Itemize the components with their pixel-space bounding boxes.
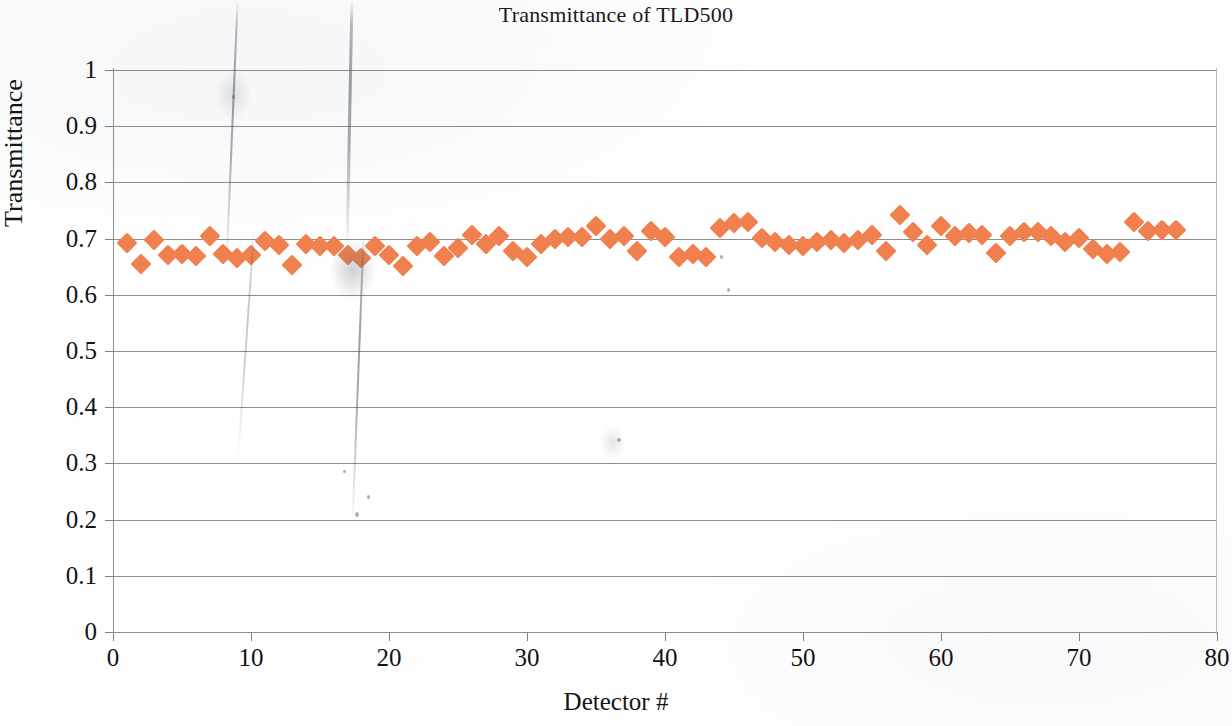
scan-speck-g [232, 95, 235, 99]
x-tick-label: 40 [653, 645, 678, 670]
scan-smudge-midpage [600, 425, 626, 459]
x-tick-label: 20 [377, 645, 402, 670]
y-tick-label: 1 [85, 57, 98, 82]
x-tick-label: 60 [929, 645, 954, 670]
scan-speck-f [617, 438, 621, 442]
x-axis-tick [1217, 632, 1218, 641]
data-point-marker [116, 232, 137, 253]
grid-line-horizontal [113, 295, 1217, 296]
grid-line-horizontal [113, 126, 1217, 127]
chart-title: Transmittance of TLD500 [0, 2, 1232, 28]
grid-line-horizontal [113, 520, 1217, 521]
x-axis-title: Detector # [0, 688, 1232, 716]
y-axis-title-text: Transmittance [0, 79, 29, 227]
grid-line-horizontal [113, 576, 1217, 577]
scanned-chart-page: Transmittance of TLD500 Transmittance De… [0, 0, 1232, 726]
grid-line-horizontal [113, 70, 1217, 71]
scan-streak-left [225, 0, 238, 268]
data-point-marker [875, 240, 896, 261]
scan-speck-c [343, 470, 346, 473]
grid-line-horizontal [113, 463, 1217, 464]
x-tick-label: 80 [1205, 645, 1230, 670]
x-axis-tick [1079, 632, 1080, 641]
y-tick-label: 0.9 [66, 113, 97, 138]
y-tick-label: 0.7 [66, 226, 97, 251]
x-tick-label: 70 [1067, 645, 1092, 670]
y-axis-line [113, 68, 114, 634]
data-point-marker [240, 245, 261, 266]
scan-streak-center-lower [351, 236, 365, 526]
x-tick-label: 0 [107, 645, 120, 670]
data-point-marker [144, 230, 165, 251]
y-tick-label: 0.6 [66, 282, 97, 307]
scan-speck-a [355, 512, 359, 517]
x-axis-line [113, 632, 1217, 633]
data-point-marker [627, 240, 648, 261]
y-tick-label: 0.5 [66, 338, 97, 363]
x-tick-label: 10 [239, 645, 264, 670]
x-tick-label: 50 [791, 645, 816, 670]
x-axis-tick [665, 632, 666, 641]
x-axis-tick [803, 632, 804, 641]
x-axis-tick [389, 632, 390, 641]
plot-right-border [1216, 68, 1217, 634]
data-point-marker [1110, 241, 1131, 262]
data-point-marker [917, 234, 938, 255]
x-tick-label: 30 [515, 645, 540, 670]
y-tick-label: 0.4 [66, 394, 97, 419]
data-point-marker [282, 254, 303, 275]
x-axis-tick [251, 632, 252, 641]
data-point-marker [130, 254, 151, 275]
x-axis-tick [941, 632, 942, 641]
data-point-marker [889, 204, 910, 225]
scan-speck-b [367, 495, 370, 499]
data-point-marker [185, 245, 206, 266]
data-point-marker [199, 226, 220, 247]
y-tick-label: 0.8 [66, 169, 97, 194]
grid-line-horizontal [113, 407, 1217, 408]
data-point-marker [1165, 220, 1186, 241]
paper-background [0, 0, 1232, 726]
grid-line-horizontal [113, 351, 1217, 352]
y-tick-label: 0 [85, 619, 98, 644]
scan-smudge-upper [215, 70, 251, 120]
scan-speck-e [727, 288, 730, 292]
scan-speck-d [720, 255, 723, 259]
x-axis-tick [527, 632, 528, 641]
scan-streak-center [346, 0, 353, 250]
y-tick-label: 0.3 [66, 450, 97, 475]
y-tick-label: 0.1 [66, 563, 97, 588]
grid-line-horizontal [113, 182, 1217, 183]
y-tick-label: 0.2 [66, 507, 97, 532]
y-axis-title: Transmittance [0, 187, 29, 227]
data-point-marker [737, 212, 758, 233]
data-point-marker [986, 242, 1007, 263]
